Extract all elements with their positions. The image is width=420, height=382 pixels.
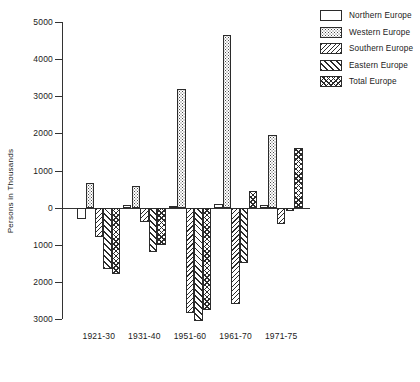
y-axis-tick [55,133,62,134]
y-axis-tick [55,245,62,246]
y-axis-tick-label: 5000 [33,17,53,27]
bar [95,208,104,238]
y-axis-tick [55,96,62,97]
bar [112,208,121,275]
legend-label: Southern Europe [349,44,413,53]
legend-swatch-forward-slash-hatch-icon [320,60,342,71]
x-axis-group-label: 1931-40 [128,331,161,341]
bar [223,35,232,208]
legend-item[interactable]: Eastern Europe [320,60,413,71]
bar [249,191,258,208]
bar [77,208,86,219]
bar [177,89,186,208]
y-axis-tick [55,171,62,172]
chart-legend: Northern EuropeWestern EuropeSouthern Eu… [320,10,413,87]
bar [194,208,203,321]
bar [149,208,158,253]
y-axis-tick [55,22,62,23]
y-axis-spine [62,22,63,319]
y-axis-tick [55,282,62,283]
legend-item[interactable]: Western Europe [320,27,413,38]
migration-bar-chart: Persons in Thousands 5000400030002000100… [0,0,420,382]
y-axis-tick-label: 3000 [33,314,53,324]
legend-swatch-empty-icon [320,10,342,21]
x-axis-group-label: 1961-70 [219,331,252,341]
bar [169,206,178,208]
y-axis-tick-label: 4000 [33,54,53,64]
y-axis-tick [55,208,62,209]
bar [186,208,195,314]
legend-swatch-backslash-hatch-icon [320,43,342,54]
y-axis-tick [55,59,62,60]
bar [240,208,249,264]
bar [231,208,240,305]
y-axis-tick-label: 1000 [33,166,53,176]
x-axis-group-label: 1971-75 [265,331,298,341]
y-axis-tick-label: 1000 [33,240,53,250]
bar [260,205,269,207]
bar [294,148,303,207]
y-axis-tick-label: 2000 [33,128,53,138]
bar [268,135,277,207]
y-axis-tick-label: 2000 [33,277,53,287]
y-axis-tick-label: 3000 [33,91,53,101]
bar [214,204,223,208]
legend-item[interactable]: Northern Europe [320,10,413,21]
legend-label: Total Europe [349,77,397,86]
bar [203,208,212,310]
bar [132,186,141,208]
bar [123,205,132,208]
legend-swatch-cross-hatch-icon [320,76,342,87]
x-axis-group-label: 1921-30 [82,331,115,341]
y-axis-tick-label: 0 [48,203,53,213]
x-axis-group-label: 1951-60 [174,331,207,341]
legend-swatch-dots-icon [320,27,342,38]
y-axis-title: Persons in Thousands [6,149,15,233]
y-axis-tick [55,319,62,320]
bar [86,183,95,207]
legend-label: Western Europe [349,28,410,37]
legend-item[interactable]: Total Europe [320,76,413,87]
bar [103,208,112,269]
legend-label: Eastern Europe [349,61,408,70]
plot-area: 500040003000200010000100020003000 1921-3… [62,22,310,319]
bar [157,208,166,245]
bar [277,208,286,225]
bar [140,208,149,223]
bar [286,208,295,212]
legend-item[interactable]: Southern Europe [320,43,413,54]
legend-label: Northern Europe [349,11,412,20]
